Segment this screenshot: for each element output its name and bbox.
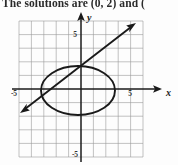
graph-svg: x y -5 5 5 -5 <box>0 10 178 165</box>
x-axis <box>12 85 162 93</box>
tick-label-y-negative: -5 <box>72 150 78 159</box>
graph-figure: x y -5 5 5 -5 <box>0 10 178 165</box>
tick-label-x-positive: 5 <box>128 89 132 98</box>
line-curve <box>20 23 136 113</box>
tick-label-y-positive: 5 <box>73 30 77 39</box>
ellipse-curve <box>41 66 115 115</box>
tick-label-x-negative: -5 <box>11 89 17 98</box>
caption-text: The solutions are (0, 2) and ( <box>2 0 178 10</box>
y-axis-label: y <box>86 12 92 23</box>
figure-page: The solutions are (0, 2) and ( <box>0 0 178 165</box>
x-axis-label: x <box>165 87 171 98</box>
